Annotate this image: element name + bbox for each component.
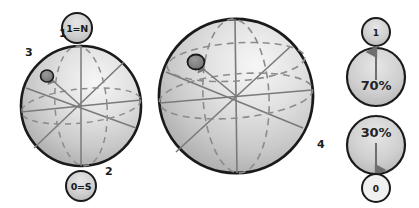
probability-seventy: 70% — [347, 48, 405, 106]
large-bloch-sphere — [157, 17, 314, 174]
probability-seventy-label: 70% — [361, 78, 392, 93]
probability-thirty: 30% — [347, 116, 405, 174]
callout-label-1: 1 — [59, 28, 67, 39]
callout-label-4: 4 — [317, 139, 325, 150]
callout-label-3: 3 — [25, 47, 33, 58]
south-pole-badge: 0=S — [66, 171, 96, 201]
north-pole-label: 1=N — [66, 23, 88, 34]
callout-label-2: 2 — [105, 166, 113, 177]
small-bloch-sphere: 1=N 0=S — [20, 13, 143, 201]
south-pole-label: 0=S — [71, 181, 92, 192]
outcome-one-badge: 1 — [362, 18, 390, 46]
probability-thirty-label: 30% — [361, 125, 392, 140]
probability-column: 1 70% 30% 0 — [347, 18, 405, 202]
outcome-one-label: 1 — [373, 28, 379, 38]
small-sphere-state-marker — [41, 70, 54, 82]
outcome-zero-badge: 0 — [362, 174, 390, 202]
figure-canvas: 1=N 0=S — [0, 0, 419, 208]
large-sphere-state-marker — [188, 55, 205, 70]
outcome-zero-label: 0 — [373, 184, 379, 194]
